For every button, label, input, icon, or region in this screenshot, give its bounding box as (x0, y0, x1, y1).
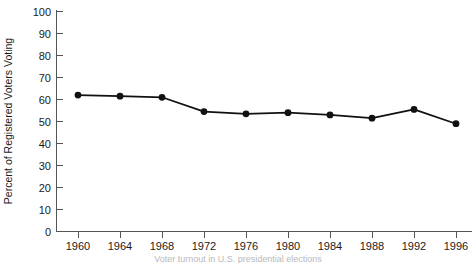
y-tick-label: 60 (39, 94, 51, 106)
data-point (117, 93, 124, 100)
data-point (285, 109, 292, 116)
y-tick-label: 40 (39, 138, 51, 150)
y-tick-label: 90 (39, 28, 51, 40)
data-point (75, 92, 82, 99)
x-tick-label: 1964 (108, 240, 132, 252)
y-tick-label: 0 (45, 226, 51, 238)
data-point (243, 110, 250, 117)
x-tick-label: 1988 (360, 240, 384, 252)
chart-figure: 100 90 80 70 60 50 40 30 20 10 0 Percent… (0, 0, 476, 263)
y-axis-title: Percent of Registered Voters Voting (2, 38, 14, 205)
x-tick-label: 1960 (66, 240, 90, 252)
data-point (369, 115, 376, 122)
y-tick-label: 10 (39, 204, 51, 216)
y-tick-label: 70 (39, 72, 51, 84)
voter-turnout-line-chart: 100 90 80 70 60 50 40 30 20 10 0 Percent… (0, 0, 476, 263)
x-tick-label: 1980 (276, 240, 300, 252)
x-tick-label: 1976 (234, 240, 258, 252)
data-point (159, 94, 166, 101)
y-tick-label: 20 (39, 182, 51, 194)
chart-background (0, 0, 476, 263)
x-tick-label: 1968 (150, 240, 174, 252)
x-tick-label: 1996 (444, 240, 468, 252)
figure-caption: Voter turnout in U.S. presidential elect… (154, 254, 322, 263)
y-tick-label: 80 (39, 50, 51, 62)
data-point (453, 120, 460, 127)
data-point (201, 108, 208, 115)
y-tick-label: 100 (33, 6, 51, 18)
x-tick-label: 1984 (318, 240, 342, 252)
data-point (411, 106, 418, 113)
x-tick-label: 1992 (402, 240, 426, 252)
y-tick-label: 50 (39, 116, 51, 128)
y-tick-label: 30 (39, 160, 51, 172)
data-point (327, 112, 334, 119)
x-tick-label: 1972 (192, 240, 216, 252)
